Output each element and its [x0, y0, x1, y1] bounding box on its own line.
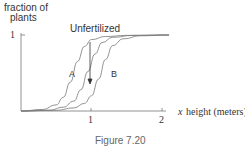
curve-b	[21, 35, 169, 111]
xtick-label-2: 2	[159, 115, 164, 125]
ylabel-line2: plants	[10, 13, 37, 23]
xtick-label-1: 1	[88, 115, 93, 125]
chart-plot	[0, 0, 245, 150]
annotation-label: Unfertilized	[70, 24, 120, 34]
figure-caption: Figure 7.20	[95, 136, 146, 146]
ytick-label-1: 1	[10, 30, 15, 40]
curve-b-label: B	[111, 69, 117, 79]
curve-a-label: A	[69, 69, 75, 79]
xlabel: height (meters)	[186, 107, 245, 117]
curve-a	[21, 35, 169, 111]
curve-unfertilized	[21, 35, 169, 111]
x-axis-symbol: x	[178, 107, 182, 117]
